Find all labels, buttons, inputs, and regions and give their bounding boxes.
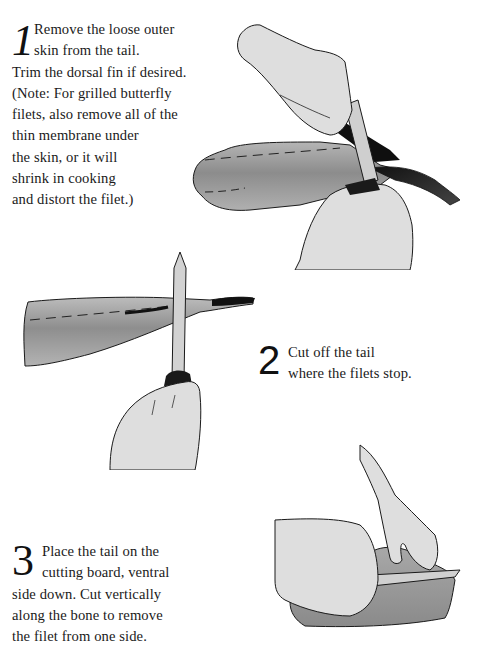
step-1-instructions: 1 Remove the loose outer skin from the t… — [12, 19, 186, 211]
step-3-line: side down. Cut vertically — [12, 584, 169, 605]
step-1-line: and distort the filet.) — [12, 189, 186, 210]
step-3-line: cutting board, ventral — [12, 562, 169, 583]
step-2-line: where the filets stop. — [258, 363, 412, 384]
hands-filleting-tail-on-board-icon — [260, 440, 481, 651]
step-2-line: Cut off the tail — [258, 342, 412, 363]
step-3-instructions: 3 Place the tail on the cutting board, v… — [12, 541, 169, 647]
step-1-line: Remove the loose outer — [12, 19, 186, 40]
step-1-line: the skin, or it will — [12, 147, 186, 168]
step-3-line: along the bone to remove — [12, 605, 169, 626]
hand-with-knife-cutting-tail-icon — [0, 240, 280, 470]
step-number-3: 3 — [12, 539, 34, 583]
step-1-line: filets, also remove all of the — [12, 104, 186, 125]
step-3-line: Place the tail on the — [12, 541, 169, 562]
step-number-1: 1 — [12, 19, 34, 63]
step-1-line: thin membrane under — [12, 125, 186, 146]
step-1-line: shrink in cooking — [12, 168, 186, 189]
step-number-2: 2 — [258, 338, 280, 382]
step-2-instructions: 2 Cut off the tail where the filets stop… — [258, 342, 412, 385]
hands-peeling-skin-from-fish-tail-icon — [180, 0, 481, 270]
step-1-line: skin from the tail. — [12, 40, 186, 61]
step-1-line: Trim the dorsal fin if desired. — [12, 62, 186, 83]
step-1-line: (Note: For grilled butterfly — [12, 83, 186, 104]
step-3-line: the filet from one side. — [12, 626, 169, 647]
